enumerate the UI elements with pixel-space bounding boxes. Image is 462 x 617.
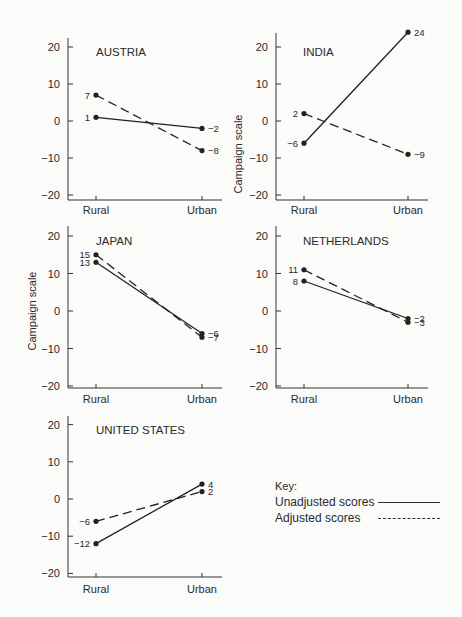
value-label: 11 [288,264,298,275]
value-label: −6 [287,138,298,149]
value-label: 24 [414,27,425,38]
y-tick-label: −10 [41,152,60,164]
panel-title: JAPAN [96,235,132,247]
x-tick-label: Urban [187,204,217,216]
panel-title: NETHERLANDS [303,235,389,247]
y-tick-label: 20 [256,41,268,53]
legend-label: Adjusted scores [275,511,375,525]
value-label: −8 [208,145,219,156]
x-tick-label: Urban [393,393,423,405]
data-point [199,148,204,153]
panel-title: AUSTRIA [96,46,146,58]
unadjusted-line [96,262,202,333]
data-point [301,267,306,272]
panel-title: INDIA [303,46,334,58]
dashed-line-icon [378,518,440,519]
y-tick-label: −20 [249,380,268,392]
y-tick-label: −20 [41,567,60,579]
y-tick-label: 20 [48,41,60,53]
data-point [199,482,204,487]
y-axis-label: Campaign scale [232,115,244,194]
data-point [93,260,98,265]
y-tick-label: −20 [41,380,60,392]
y-axis-label: Campaign scale [26,272,38,351]
data-point [301,278,306,283]
legend-item-adjusted: Adjusted scores [275,510,440,526]
data-point [93,252,98,257]
adjusted-line [96,95,202,151]
value-label: 2 [293,108,298,119]
y-tick-label: 20 [48,230,60,242]
data-point [93,519,98,524]
data-point [405,152,410,157]
adjusted-line [304,270,408,323]
x-tick-label: Rural [83,393,109,405]
y-tick-label: 10 [48,268,60,280]
adjusted-line [96,492,202,522]
y-tick-label: 0 [54,493,60,505]
y-tick-label: −20 [41,189,60,201]
legend-title: Key: [275,480,440,492]
data-point [301,111,306,116]
value-label: 8 [293,276,298,287]
value-label: −9 [414,149,425,160]
y-tick-label: 10 [48,456,60,468]
value-label: −2 [208,123,219,134]
data-point [405,30,410,35]
data-point [199,489,204,494]
x-tick-label: Rural [291,393,317,405]
data-point [199,335,204,340]
panel-japan: 20100−10−20RuralUrbanJAPANCampaign scale… [26,226,222,405]
y-tick-label: −10 [41,530,60,542]
x-tick-label: Rural [291,204,317,216]
data-point [93,541,98,546]
y-tick-label: −20 [249,189,268,201]
y-tick-label: 0 [262,305,268,317]
x-tick-label: Rural [83,204,109,216]
y-tick-label: 20 [256,230,268,242]
y-tick-label: 10 [256,268,268,280]
panel-united-states: 20100−10−20RuralUrbanUNITED STATES−124−6… [41,416,222,595]
y-tick-label: 0 [262,115,268,127]
data-point [301,141,306,146]
y-tick-label: 20 [48,419,60,431]
legend-item-unadjusted: Unadjusted scores [275,494,440,510]
y-tick-label: −10 [249,152,268,164]
value-label: −12 [74,538,90,549]
y-tick-label: −10 [249,343,268,355]
panel-netherlands: 20100−10−20RuralUrbanNETHERLANDS8−211−3 [249,226,428,405]
unadjusted-line [96,484,202,544]
y-tick-label: 10 [48,78,60,90]
panel-india: 20100−10−20RuralUrbanINDIACampaign scale… [232,27,428,216]
data-point [93,93,98,98]
y-tick-label: −10 [41,343,60,355]
legend: Key: Unadjusted scores Adjusted scores [275,480,440,526]
adjusted-line [304,114,408,155]
x-tick-label: Rural [83,583,109,595]
panel-title: UNITED STATES [96,424,185,436]
panel-austria: 20100−10−20RuralUrbanAUSTRIA1−27−8 [41,38,222,216]
unadjusted-line [304,281,408,319]
x-tick-label: Urban [187,393,217,405]
data-point [405,320,410,325]
data-point [93,115,98,120]
value-label: 2 [208,486,213,497]
x-tick-label: Urban [187,583,217,595]
value-label: 15 [79,249,90,260]
adjusted-line [96,255,202,338]
value-label: 7 [85,90,90,101]
y-tick-label: 0 [54,115,60,127]
value-label: −3 [414,317,425,328]
solid-line-icon [378,502,440,503]
value-label: −6 [79,516,90,527]
y-tick-label: 0 [54,305,60,317]
value-label: −7 [208,332,219,343]
data-point [199,126,204,131]
legend-label: Unadjusted scores [275,495,375,509]
y-tick-label: 10 [256,78,268,90]
x-tick-label: Urban [393,204,423,216]
value-label: 1 [85,112,90,123]
